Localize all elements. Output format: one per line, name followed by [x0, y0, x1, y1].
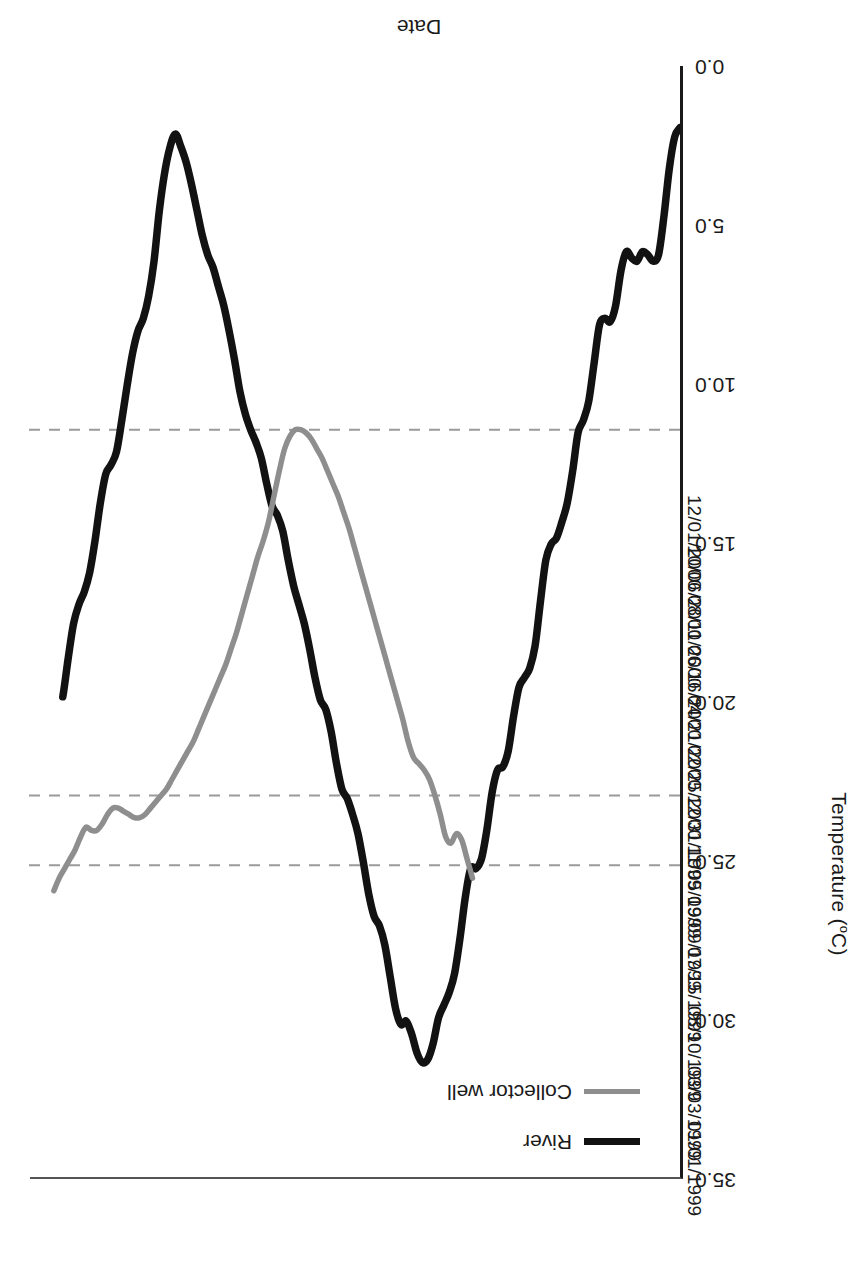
x-tick-label: 12/01/2000 — [683, 495, 705, 590]
series-line-collector-well — [54, 429, 473, 891]
legend-item-collector-well: Collector well — [447, 1080, 640, 1104]
series-line-river — [63, 128, 680, 1063]
y-tick-label: 25.0 — [695, 850, 773, 874]
plot-svg — [27, 64, 680, 1177]
legend-label-collector-well: Collector well — [447, 1080, 572, 1104]
y-tick-label: 0.0 — [695, 55, 773, 79]
legend-swatch-collector-well-icon — [584, 1090, 640, 1095]
y-axis-title: Temperature (oC) — [827, 674, 852, 1074]
y-axis-title-text: Temperature (oC) — [828, 792, 851, 955]
chart-legend: River Collector well — [447, 1080, 640, 1154]
plot-area — [30, 66, 683, 1179]
data-series-group — [54, 128, 680, 1063]
y-tick-label: 15.0 — [695, 532, 773, 556]
y-tick-label: 5.0 — [695, 214, 773, 238]
x-axis-title: Date — [0, 15, 838, 39]
x-axis-title-text: Date — [397, 16, 441, 39]
legend-label-river: River — [523, 1130, 572, 1154]
reference-lines — [27, 430, 680, 866]
y-tick-label: 30.0 — [695, 1009, 773, 1033]
legend-swatch-river-icon — [584, 1139, 640, 1146]
legend-item-river: River — [447, 1130, 640, 1154]
y-tick-label: 20.0 — [695, 691, 773, 715]
y-tick-label: 10.0 — [695, 373, 773, 397]
y-tick-label: 35.0 — [695, 1168, 773, 1192]
